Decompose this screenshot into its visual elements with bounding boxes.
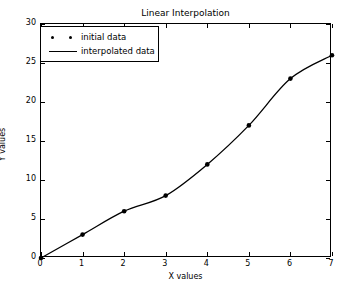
chart-title: Linear Interpolation <box>40 7 331 19</box>
x-tick-label: 1 <box>79 259 84 269</box>
y-tick-mark <box>326 102 330 103</box>
data-point-marker <box>330 53 335 58</box>
solid-line-icon <box>45 45 81 57</box>
y-tick-label: 0 <box>31 252 36 262</box>
figure-canvas: Linear Interpolation 0123456705101520253… <box>0 0 349 297</box>
x-tick-mark <box>249 252 250 256</box>
x-tick-mark <box>332 24 333 28</box>
x-tick-mark <box>207 24 208 28</box>
x-tick-mark <box>249 24 250 28</box>
x-tick-mark <box>290 24 291 28</box>
y-tick-label: 20 <box>26 96 36 106</box>
y-tick-mark <box>326 63 330 64</box>
x-tick-mark <box>41 252 42 256</box>
y-tick-label: 15 <box>26 135 36 145</box>
y-tick-label: 25 <box>26 57 36 67</box>
y-tick-label: 10 <box>26 174 36 184</box>
legend-entry-initial-data: initial data <box>45 30 153 44</box>
y-tick-mark <box>41 180 45 181</box>
y-tick-mark <box>326 219 330 220</box>
y-tick-mark <box>326 180 330 181</box>
data-point-marker <box>247 123 252 128</box>
x-tick-mark <box>124 252 125 256</box>
legend-entry-interpolated-data: interpolated data <box>45 44 153 58</box>
data-point-marker <box>205 162 210 167</box>
y-tick-label: 5 <box>31 213 36 223</box>
x-tick-label: 6 <box>287 259 292 269</box>
x-tick-mark <box>166 24 167 28</box>
legend-label-initial-data: initial data <box>81 31 126 43</box>
y-tick-label: 30 <box>26 18 36 28</box>
x-axis-label: X values <box>40 272 331 281</box>
data-point-marker <box>80 232 85 237</box>
y-tick-mark <box>41 63 45 64</box>
marker-dots-icon <box>45 31 81 43</box>
legend: initial data interpolated data <box>40 26 159 62</box>
x-tick-mark <box>83 252 84 256</box>
y-tick-mark <box>41 24 45 25</box>
x-tick-label: 3 <box>162 259 167 269</box>
y-tick-mark <box>41 141 45 142</box>
y-tick-mark <box>41 219 45 220</box>
x-tick-mark <box>166 252 167 256</box>
x-tick-label: 2 <box>121 259 126 269</box>
y-tick-mark <box>326 141 330 142</box>
y-tick-mark <box>326 24 330 25</box>
interpolated-data-line <box>41 55 332 258</box>
data-point-marker <box>288 76 293 81</box>
y-tick-mark <box>41 102 45 103</box>
data-point-marker <box>163 193 168 198</box>
initial-data-markers <box>39 53 335 260</box>
x-tick-mark <box>207 252 208 256</box>
x-tick-mark <box>332 252 333 256</box>
data-point-marker <box>122 209 127 214</box>
x-tick-label: 5 <box>245 259 250 269</box>
x-tick-label: 0 <box>37 259 42 269</box>
y-axis-label: Y values <box>0 128 7 161</box>
legend-label-interpolated-data: interpolated data <box>81 45 155 57</box>
x-tick-label: 4 <box>204 259 209 269</box>
x-tick-mark <box>290 252 291 256</box>
x-tick-label: 7 <box>328 259 333 269</box>
